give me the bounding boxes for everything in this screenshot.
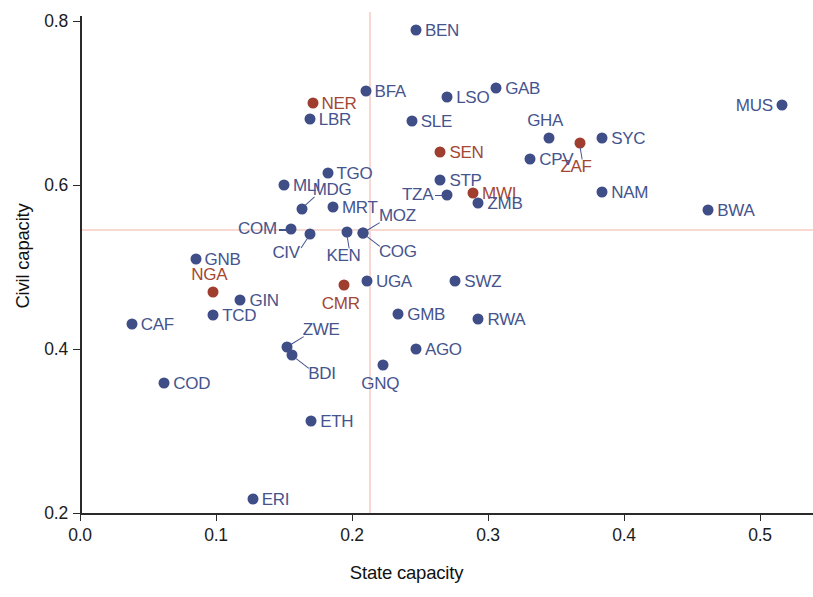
data-point[interactable] xyxy=(285,224,296,235)
data-point-label: SYC xyxy=(611,129,645,149)
data-point-label: GMB xyxy=(407,305,445,325)
y-tick-mark xyxy=(73,349,80,350)
data-point[interactable] xyxy=(322,167,333,178)
data-point-label: ZMB xyxy=(487,194,522,214)
data-point-label: BFA xyxy=(375,82,406,102)
x-tick-label: 0.5 xyxy=(748,525,772,546)
data-point-label: SWZ xyxy=(464,272,501,292)
data-point-label: TCD xyxy=(222,306,256,326)
data-point-label: BWA xyxy=(717,201,754,221)
data-point[interactable] xyxy=(393,308,404,319)
data-point-label: CIV xyxy=(272,243,299,263)
data-point-label: COG xyxy=(379,242,417,262)
data-point-label: BEN xyxy=(425,21,459,41)
data-point[interactable] xyxy=(306,416,317,427)
data-point-label: NGA xyxy=(191,265,227,285)
data-point[interactable] xyxy=(473,313,484,324)
data-point-label: CMR xyxy=(322,294,360,314)
data-point[interactable] xyxy=(410,25,421,36)
data-point[interactable] xyxy=(435,147,446,158)
x-tick-label: 0.1 xyxy=(204,525,228,546)
data-point-label: SEN xyxy=(449,143,483,163)
data-point[interactable] xyxy=(208,310,219,321)
data-point[interactable] xyxy=(361,275,372,286)
data-point[interactable] xyxy=(126,318,137,329)
data-point[interactable] xyxy=(435,175,446,186)
label-leader-line xyxy=(279,229,287,230)
data-point[interactable] xyxy=(159,378,170,389)
data-point-label: GNQ xyxy=(361,374,399,394)
data-point-label: ETH xyxy=(320,412,353,432)
data-point[interactable] xyxy=(338,280,349,291)
x-tick-mark xyxy=(352,514,353,521)
x-tick-mark xyxy=(624,514,625,521)
data-point[interactable] xyxy=(327,202,338,213)
data-point-label: COM xyxy=(238,219,277,239)
data-point-label: COD xyxy=(173,374,210,394)
data-point-label: ZWE xyxy=(303,320,340,340)
data-point-label: CAF xyxy=(141,315,174,335)
data-point[interactable] xyxy=(378,359,389,370)
data-point[interactable] xyxy=(406,116,417,127)
data-point-label: MUS xyxy=(736,96,773,116)
y-tick-mark xyxy=(73,21,80,22)
data-point-label: NAM xyxy=(611,183,648,203)
data-point[interactable] xyxy=(307,98,318,109)
data-point[interactable] xyxy=(776,99,787,110)
data-point-label: MRT xyxy=(342,198,378,218)
x-tick-label: 0.3 xyxy=(476,525,500,546)
x-axis-line xyxy=(80,513,813,515)
data-point[interactable] xyxy=(525,153,536,164)
data-point[interactable] xyxy=(410,344,421,355)
data-point[interactable] xyxy=(341,226,352,237)
data-point[interactable] xyxy=(190,253,201,264)
x-tick-mark xyxy=(216,514,217,521)
data-point[interactable] xyxy=(491,83,502,94)
y-axis-title: Civil capacity xyxy=(12,116,34,396)
data-point[interactable] xyxy=(442,189,453,200)
data-point[interactable] xyxy=(235,294,246,305)
data-point-label: GHA xyxy=(527,111,563,131)
data-point[interactable] xyxy=(442,92,453,103)
data-point[interactable] xyxy=(247,494,258,505)
x-tick-label: 0.0 xyxy=(68,525,92,546)
data-point[interactable] xyxy=(473,198,484,209)
data-point[interactable] xyxy=(304,114,315,125)
data-point-label: CPV xyxy=(539,150,573,170)
data-point-label: MDG xyxy=(313,180,352,200)
data-point[interactable] xyxy=(597,186,608,197)
label-leader-line xyxy=(300,238,307,248)
y-tick-label: 0.2 xyxy=(44,503,68,524)
data-point-label: UGA xyxy=(376,272,412,292)
y-tick-label: 0.8 xyxy=(44,11,68,32)
label-leader-line xyxy=(435,195,443,196)
y-tick-label: 0.4 xyxy=(44,339,68,360)
data-point[interactable] xyxy=(703,204,714,215)
data-point-label: MOZ xyxy=(379,206,416,226)
data-point-label: AGO xyxy=(425,340,462,360)
data-point-label: KEN xyxy=(327,246,361,266)
x-tick-label: 0.4 xyxy=(612,525,636,546)
data-point[interactable] xyxy=(360,85,371,96)
data-point-label: ERI xyxy=(262,490,289,510)
x-tick-mark xyxy=(488,514,489,521)
y-tick-mark xyxy=(73,513,80,514)
data-point[interactable] xyxy=(450,275,461,286)
data-point-label: RWA xyxy=(487,310,525,330)
y-axis-tick-labels: 0.20.40.60.8 xyxy=(0,0,68,597)
data-point-label: LSO xyxy=(456,88,489,108)
y-tick-mark xyxy=(73,185,80,186)
data-point-label: SLE xyxy=(421,112,452,132)
y-axis-line xyxy=(80,16,82,514)
data-point[interactable] xyxy=(279,180,290,191)
x-tick-label: 0.2 xyxy=(340,525,364,546)
y-tick-label: 0.6 xyxy=(44,175,68,196)
data-point-label: BDI xyxy=(308,364,335,384)
data-point-label: LBR xyxy=(319,110,351,130)
data-point[interactable] xyxy=(544,133,555,144)
data-point-label: STP xyxy=(449,171,481,191)
data-point[interactable] xyxy=(208,286,219,297)
data-point[interactable] xyxy=(597,133,608,144)
scatter-plot-figure: BENBFALSOGABMUSNERLBRSLEGHASYCZAFSENCPVT… xyxy=(0,0,813,597)
data-point-label: TZA xyxy=(402,185,433,205)
